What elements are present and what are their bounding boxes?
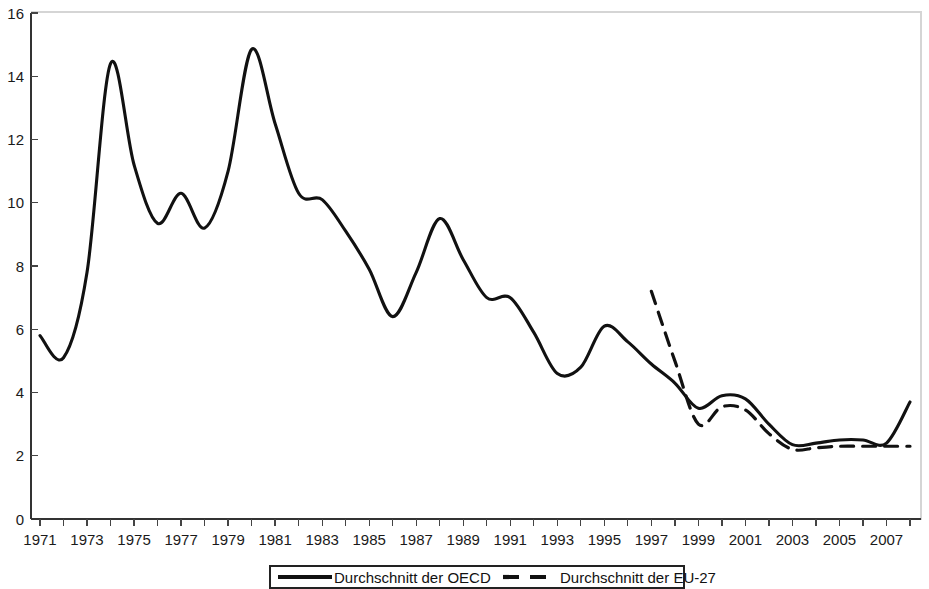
x-tick-label: 1979 [211,531,244,548]
data-series-group [40,49,910,451]
x-tick-label: 1971 [23,531,56,548]
x-tick-label: 1995 [588,531,621,548]
legend-label-eu27: Durchschnitt der EU-27 [560,569,716,586]
x-tick-label: 1983 [305,531,338,548]
x-tick-label: 1997 [635,531,668,548]
x-tick-label: 1985 [353,531,386,548]
x-tick-label: 1987 [400,531,433,548]
series-line-1 [40,49,910,446]
y-tick-label: 14 [7,68,24,85]
y-tick-label: 2 [16,447,24,464]
x-tick-label: 1975 [117,531,150,548]
x-axis: 1971197319751977197919811983198519871989… [23,519,921,548]
y-tick-label: 6 [16,321,24,338]
legend-label-oecd: Durchschnitt der OECD [334,569,491,586]
x-tick-label: 1999 [682,531,715,548]
x-tick-label: 2007 [870,531,903,548]
x-tick-label: 1981 [258,531,291,548]
series-line-2 [651,291,910,450]
y-tick-label: 0 [16,511,24,528]
x-tick-label: 1993 [541,531,574,548]
y-tick-label: 8 [16,258,24,275]
y-tick-label: 16 [7,5,24,22]
chart-container: 0246810121416 19711973197519771979198119… [0,0,929,589]
y-tick-label: 10 [7,194,24,211]
x-tick-label: 1977 [164,531,197,548]
y-tick-label: 12 [7,131,24,148]
x-tick-label: 1991 [494,531,527,548]
y-tick-label: 4 [16,384,24,401]
y-axis: 0246810121416 [7,5,38,528]
x-tick-label: 2003 [776,531,809,548]
line-chart: 0246810121416 19711973197519771979198119… [0,0,929,589]
x-tick-label: 2005 [823,531,856,548]
x-tick-label: 1989 [447,531,480,548]
chart-legend: Durchschnitt der OECDDurchschnitt der EU… [270,566,716,588]
x-tick-label: 2001 [729,531,762,548]
x-tick-label: 1973 [70,531,103,548]
